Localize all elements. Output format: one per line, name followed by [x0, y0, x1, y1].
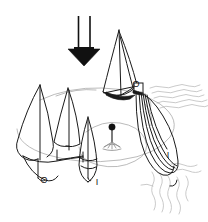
label-o-bottom-left: O [40, 175, 47, 185]
arrow-head-icon [68, 49, 100, 66]
water-wake-lines [141, 85, 208, 215]
course-mark-buoy [103, 124, 121, 151]
buoy-base-fan [103, 142, 121, 151]
label-i-right: I [167, 150, 170, 160]
label-o-top-right: O [132, 79, 139, 89]
sailboat-right-trailing [136, 92, 178, 186]
arrow-head-shoulder [74, 47, 94, 51]
sailboat-left [17, 85, 83, 181]
buoy-ball-icon [109, 124, 115, 130]
figure-canvas: O O I I [0, 0, 208, 222]
label-i-middle: I [96, 177, 99, 187]
wind-direction-arrow [68, 16, 100, 66]
figure-root: O O I I [0, 0, 208, 222]
